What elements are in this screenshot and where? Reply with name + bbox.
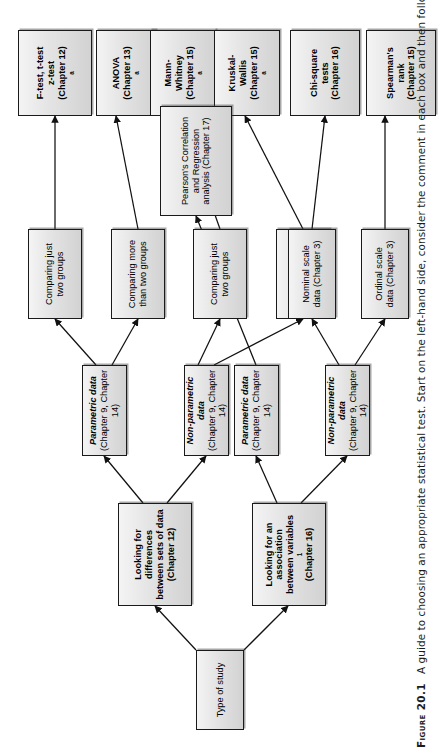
node-line-2: (Chapter 9, Chapter 14) — [251, 369, 273, 452]
node-line-2: tests — [320, 34, 331, 112]
node-label-block: F-test, t-test z-test (Chapter 12)a — [35, 34, 75, 112]
footnote-marker: a — [196, 34, 203, 112]
node-looking-for-association[interactable]: Looking for an association between varia… — [252, 503, 326, 606]
node-anova[interactable]: ANOVA (Chapter 13)a — [96, 30, 156, 116]
node-label-block: Parametric data (Chapter 9, Chapter 14) — [240, 369, 273, 452]
node-line-1: Parametric data — [88, 369, 99, 452]
node-line-1: Chi-square — [309, 34, 320, 112]
node-line-1: Parametric data — [240, 369, 251, 452]
footnote-marker: 1 — [296, 507, 303, 602]
node-line-1: Looking for differences — [133, 507, 155, 602]
node-label-block: ANOVA (Chapter 13)a — [111, 34, 140, 112]
node-line-2: two groups — [55, 233, 66, 315]
node-line-3: analysis (Chapter 17) — [201, 110, 212, 212]
node-label-block: Looking for differences between sets of … — [133, 507, 176, 602]
node-line-2: Whitney — [174, 34, 185, 112]
node-nominal-scale-data[interactable]: Nominal scale data (Chapter 3) — [288, 229, 336, 319]
node-label-block: Mann- Whitney (Chapter 15)a — [163, 34, 203, 112]
node-line-1: Comparing more — [127, 233, 138, 315]
node-label-block: Parametric data (Chapter 9, Chapter 14) — [88, 369, 121, 452]
node-line-2: than two groups — [138, 233, 149, 315]
node-assoc-parametric-data[interactable]: Parametric data (Chapter 9, Chapter 14) — [234, 365, 279, 456]
node-label-block: Spearman's rank (Chapter 15) — [385, 34, 418, 112]
node-line-2: (Chapter 13)a — [122, 34, 140, 112]
node-line-1: Looking for an association — [264, 507, 286, 602]
node-line-1: ANOVA — [111, 34, 122, 112]
node-line-1: Comparing just — [209, 233, 220, 315]
footnote-marker: a — [68, 34, 75, 112]
figure-caption: Figure 20.1A guide to choosing an approp… — [415, 0, 440, 748]
node-label-block: Non-parametric data (Chapter 9, Chapter … — [185, 369, 228, 452]
node-line-1: Comparing just — [44, 233, 55, 315]
figure-caption-text: A guide to choosing an appropriate stati… — [415, 0, 427, 674]
node-line-2: Wallis — [238, 34, 249, 112]
node-line-1: Non-parametric data — [326, 369, 348, 452]
node-label: Type of study — [215, 654, 226, 726]
node-label-block: Pearson's Correlation and Regression ana… — [180, 110, 213, 212]
node-line-3: (Chapter 15)a — [249, 34, 267, 112]
node-label-block: Looking for an association between varia… — [264, 507, 315, 602]
footnote-marker: a — [133, 34, 140, 112]
node-diff-nonparametric-data[interactable]: Non-parametric data (Chapter 9, Chapter … — [184, 365, 229, 456]
node-parametric-more-groups[interactable]: Comparing more than two groups — [111, 229, 165, 319]
node-line-3: (Chapter 16) — [304, 507, 315, 602]
node-line-2: data (Chapter 3) — [312, 233, 323, 315]
footnote-marker: a — [260, 34, 267, 112]
node-label-block: Comparing just two groups — [209, 233, 231, 315]
node-label-block: Comparing more than two groups — [127, 233, 149, 315]
node-line-1: Non-parametric data — [185, 369, 207, 452]
node-label-block: Kruskal- Wallis (Chapter 15)a — [227, 34, 267, 112]
node-kruskal-wallis[interactable]: Kruskal- Wallis (Chapter 15)a — [214, 30, 280, 116]
node-label-block: Comparing just two groups — [44, 233, 66, 315]
figure-number: Figure 20.1 — [415, 683, 427, 748]
node-line-2: rank — [396, 34, 407, 112]
node-line-1: F-test, t-test — [35, 34, 46, 112]
node-chi-square-tests[interactable]: Chi-square tests (Chapter 16) — [290, 30, 360, 116]
figure-rotation-wrapper: Type of study Looking for differences be… — [0, 0, 440, 756]
node-line-1: Mann- — [163, 34, 174, 112]
node-nonparametric-two-groups[interactable]: Comparing just two groups — [193, 229, 247, 319]
node-ordinal-scale-data[interactable]: Ordinal scale data (Chapter 3) — [361, 229, 409, 319]
node-type-of-study[interactable]: Type of study — [196, 650, 244, 730]
node-label-block: Non-parametric data (Chapter 9, Chapter … — [326, 369, 369, 452]
node-line-2: (Chapter 9, Chapter 14) — [207, 369, 229, 452]
node-line-2: between variables1 — [285, 507, 303, 602]
node-line-3: (Chapter 15)a — [185, 34, 203, 112]
node-label-block: Ordinal scale data (Chapter 3) — [374, 233, 396, 315]
node-line-1: Kruskal- — [227, 34, 238, 112]
node-label-block: Chi-square tests (Chapter 16) — [309, 34, 342, 112]
node-line-1: Spearman's — [385, 34, 396, 112]
node-pearson-correlation-regression[interactable]: Pearson's Correlation and Regression ana… — [160, 106, 232, 216]
node-line-2: between sets of data — [155, 507, 166, 602]
node-line-1: Nominal scale — [301, 233, 312, 315]
node-line-2: and Regression — [191, 110, 202, 212]
node-line-3: (Chapter 12)a — [57, 34, 75, 112]
node-line-2: (Chapter 9, Chapter 14) — [99, 369, 121, 452]
node-diff-parametric-data[interactable]: Parametric data (Chapter 9, Chapter 14) — [82, 365, 127, 456]
node-line-1: Ordinal scale — [374, 233, 385, 315]
node-line-2: (Chapter 9, Chapter 14) — [348, 369, 370, 452]
flowchart-canvas: Type of study Looking for differences be… — [0, 0, 440, 756]
node-assoc-nonparametric-data[interactable]: Non-parametric data (Chapter 9, Chapter … — [325, 365, 370, 456]
node-label-block: Nominal scale data (Chapter 3) — [301, 233, 323, 315]
node-line-2: data (Chapter 3) — [385, 233, 396, 315]
node-line-3: (Chapter 16) — [330, 34, 341, 112]
node-looking-for-differences[interactable]: Looking for differences between sets of … — [118, 503, 192, 606]
node-line-1: Pearson's Correlation — [180, 110, 191, 212]
node-line-2: z-test — [46, 34, 57, 112]
node-line-2: two groups — [220, 233, 231, 315]
node-parametric-two-groups[interactable]: Comparing just two groups — [28, 229, 82, 319]
node-mann-whitney[interactable]: Mann- Whitney (Chapter 15)a — [150, 30, 216, 116]
node-line-3: (Chapter 12) — [166, 507, 177, 602]
node-f-t-z-test[interactable]: F-test, t-test z-test (Chapter 12)a — [18, 30, 92, 116]
